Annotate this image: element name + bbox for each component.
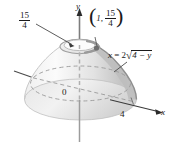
point-y-fraction: 154 (105, 9, 116, 28)
fraction-denominator: 4 (19, 20, 30, 30)
equation-equals: = (114, 50, 119, 60)
fraction-leader-line (36, 24, 72, 45)
y-axis-label: y (76, 2, 80, 11)
close-paren: ) (116, 3, 123, 28)
y-tick-fraction-label: 15 4 (19, 11, 30, 30)
z-axis-stub (14, 71, 34, 78)
x-axis-label: x (161, 108, 165, 117)
point-coordinate-label: (1,154) (89, 9, 123, 28)
point-y-numerator: 15 (105, 9, 116, 18)
curve-equation-label: x = 2√4 − y (108, 50, 152, 61)
y-axis (77, 8, 83, 44)
point-y-denominator: 4 (105, 18, 116, 28)
open-paren: ( (89, 3, 96, 28)
equation-radicand: 4 − y (131, 50, 152, 60)
point-x-value: 1, (96, 13, 103, 23)
square-root-group: √4 − y (126, 50, 152, 61)
figure-container: 15 4 (1,154) x = 2√4 − y y x 0 4 (0, 0, 181, 148)
fraction-15-over-4: 15 4 (19, 11, 30, 30)
origin-label: 0 (62, 88, 67, 97)
x-axis-tick-label: 4 (120, 110, 125, 119)
equation-lhs: x (108, 50, 112, 60)
fraction-numerator: 15 (19, 11, 30, 20)
